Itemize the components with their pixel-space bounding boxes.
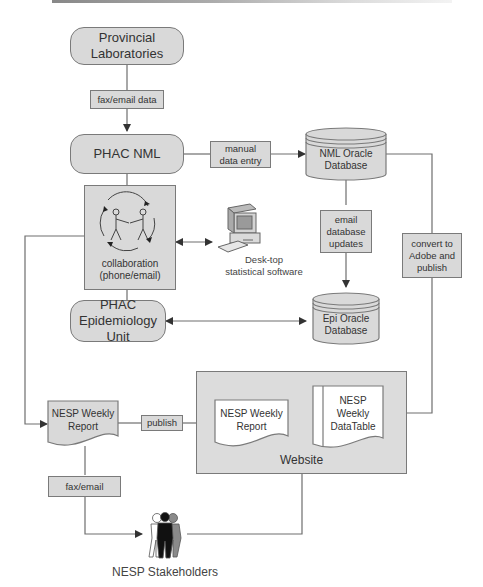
stakeholders-node: NESP Stakeholders <box>100 565 230 579</box>
stakeholders-label: NESP Stakeholders <box>112 565 218 579</box>
stakeholders-group-icon <box>0 0 483 587</box>
